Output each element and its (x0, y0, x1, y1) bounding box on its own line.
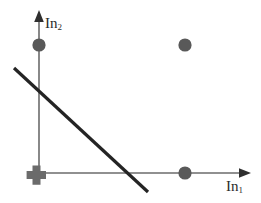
point-on-y-axis (32, 38, 45, 51)
point-on-x-axis (178, 166, 191, 179)
origin-cross-marker (27, 166, 46, 185)
diagram-canvas (0, 0, 261, 203)
y-axis-label-subscript: 2 (58, 22, 63, 32)
x-axis-label: In1 (226, 179, 243, 194)
input-space-diagram: In2 In1 (0, 0, 261, 203)
x-axis-label-base: In (226, 178, 239, 194)
x-axis-label-subscript: 1 (239, 185, 244, 195)
x-axis-arrow-icon (239, 168, 251, 177)
y-axis-label-base: In (45, 15, 58, 31)
y-axis-arrow-icon (34, 10, 44, 22)
point-upper-right (178, 38, 191, 51)
y-axis-label: In2 (45, 16, 62, 31)
